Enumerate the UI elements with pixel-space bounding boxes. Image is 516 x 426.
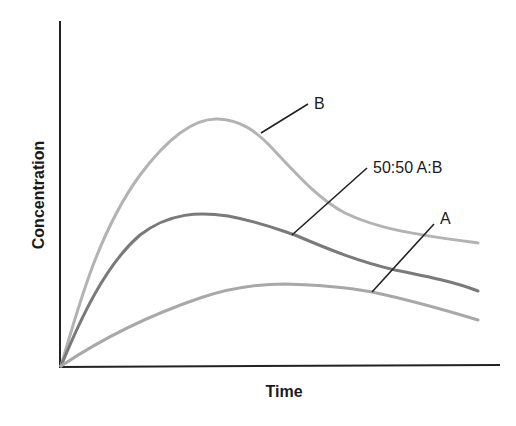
- series-label-a: A: [440, 210, 451, 227]
- series-label-50-50: 50:50 A:B: [373, 159, 442, 176]
- curve-a: [61, 284, 478, 366]
- chart-canvas: B 50:50 A:B A Time Concentration: [0, 0, 516, 426]
- x-axis: [59, 365, 500, 367]
- leader-line-a: [372, 224, 434, 292]
- leader-line-b: [261, 104, 308, 133]
- leader-line-50-50: [292, 168, 367, 235]
- x-axis-title: Time: [265, 383, 302, 400]
- curve-50-50: [61, 214, 478, 366]
- y-axis-title: Concentration: [30, 141, 47, 249]
- series-label-b: B: [314, 95, 325, 112]
